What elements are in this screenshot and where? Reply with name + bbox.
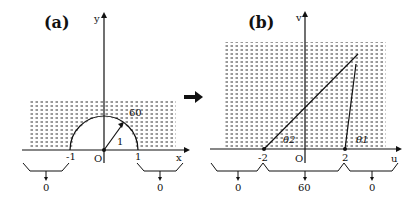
radius-label: 1 (117, 136, 123, 147)
panel-b-label: (b) (248, 13, 274, 32)
brace-right-b (344, 163, 398, 171)
boundary-right-a-value: 0 (157, 182, 163, 193)
origin-label: O (94, 153, 102, 164)
boundary-left-b-value: 0 (235, 182, 241, 193)
panel-a: (a) y x O -1 1 1 60 0 0 (22, 12, 190, 193)
origin-dot (102, 148, 106, 152)
boundary-middle-b-value: 60 (298, 182, 311, 193)
u-axis-arrow-icon (396, 146, 402, 152)
theta1-label: θ1 (356, 134, 368, 145)
conformal-mapping-diagram: (a) y x O -1 1 1 60 0 0 (0, 0, 418, 204)
tick-pos-2: 2 (342, 152, 348, 163)
point-neg2 (262, 147, 266, 151)
panel-a-label: (a) (44, 13, 70, 32)
y-axis-arrow-icon (101, 12, 107, 18)
brace-left-a (23, 163, 69, 171)
panel-b: (b) v u O -2 2 θ2 θ1 0 60 0 (210, 11, 402, 193)
v-axis-label: v (295, 12, 302, 23)
mapping-arrow-icon (184, 91, 203, 103)
boundary-right-b-value: 0 (369, 182, 375, 193)
brace-middle-b (263, 163, 344, 171)
brace-right-a (137, 163, 183, 171)
tick-pos-1: 1 (135, 151, 141, 162)
arrow-down-icon (303, 177, 307, 181)
point-pos2 (343, 147, 347, 151)
tick-neg-1: -1 (66, 151, 76, 162)
x-axis-arrow-icon (184, 147, 190, 153)
tick-neg-2: -2 (258, 152, 268, 163)
arrow-down-icon (44, 177, 48, 181)
arrow-down-icon (158, 177, 162, 181)
u-axis-label: u (391, 153, 398, 164)
boundary-left-a-value: 0 (43, 182, 49, 193)
y-axis-label: y (93, 13, 100, 24)
shaded-region-a (28, 100, 176, 149)
origin-label-b: O (295, 153, 303, 164)
arrow-down-icon (236, 177, 240, 181)
x-axis-label: x (176, 152, 182, 163)
theta2-label: θ2 (283, 134, 295, 145)
region-value-label: 60 (129, 107, 142, 118)
arrow-down-icon (370, 177, 374, 181)
brace-left-b (211, 163, 263, 171)
v-axis-arrow-icon (302, 11, 308, 17)
